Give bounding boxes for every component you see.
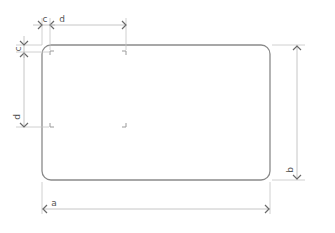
label-a: a xyxy=(51,198,57,208)
dimension-c-top: c xyxy=(33,14,55,29)
card-outline xyxy=(42,45,270,180)
dimension-a: a xyxy=(42,198,270,213)
extension-lines xyxy=(16,18,305,214)
label-c-top: c xyxy=(43,14,48,24)
dimension-d-top: d xyxy=(50,14,126,29)
label-b: b xyxy=(285,167,295,173)
inner-area-corner-marks xyxy=(50,51,126,127)
diagram-canvas: c d c d b a xyxy=(0,0,335,233)
label-c-left: c xyxy=(13,46,23,51)
dimension-b: b xyxy=(285,45,301,180)
dimension-d-left: d xyxy=(12,52,28,127)
label-d-left: d xyxy=(12,114,22,120)
dimension-c-left: c xyxy=(13,36,28,58)
label-d-top: d xyxy=(59,14,65,24)
